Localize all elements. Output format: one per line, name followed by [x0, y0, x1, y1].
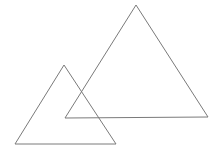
small-triangle	[15, 65, 116, 144]
large-triangle	[65, 5, 208, 118]
triangles-diagram	[0, 0, 217, 151]
